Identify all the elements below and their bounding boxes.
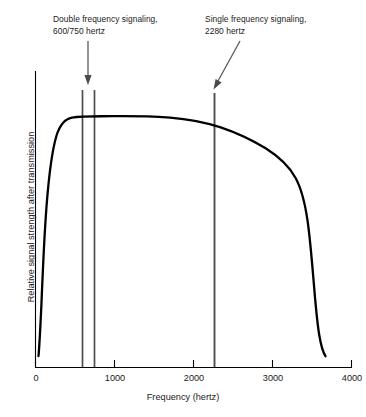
annotation-single-frequency: Single frequency signaling, 2280 hertz — [205, 14, 335, 37]
x-tick-label-2000: 2000 — [174, 373, 214, 383]
y-axis-title: Relative signal strength after transmiss… — [26, 92, 36, 342]
chart-background — [0, 0, 366, 417]
annotation-double-frequency: Double frequency signaling, 600/750 hert… — [53, 14, 188, 37]
x-tick-label-0: 0 — [16, 373, 56, 383]
signal-attenuation-chart — [0, 0, 366, 417]
x-tick-label-3000: 3000 — [253, 373, 293, 383]
x-axis-title: Frequency (hertz) — [0, 392, 366, 402]
x-tick-label-4000: 4000 — [332, 373, 366, 383]
chart-figure: Double frequency signaling, 600/750 hert… — [0, 0, 366, 417]
x-tick-label-1000: 1000 — [95, 373, 135, 383]
